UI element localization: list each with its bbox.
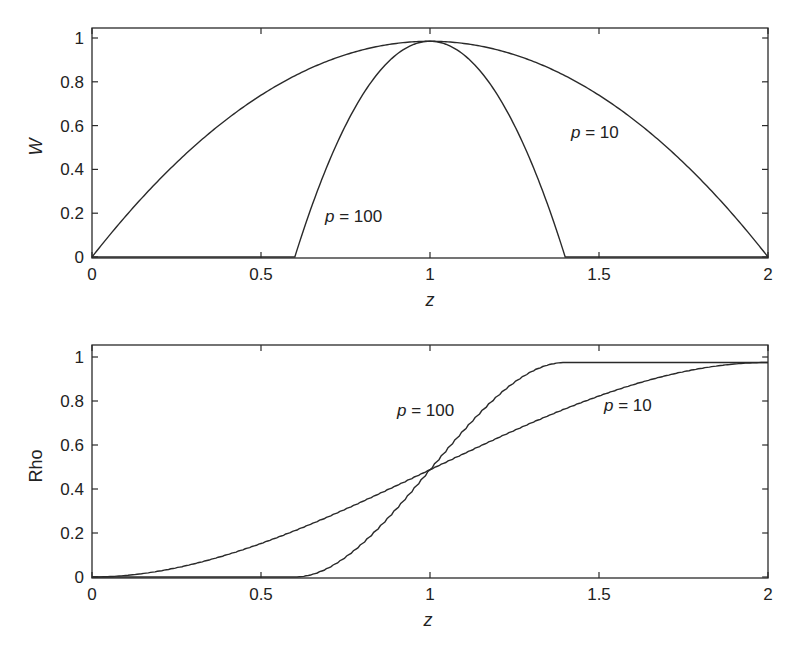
x-tick-label: 2 bbox=[763, 265, 772, 284]
bottom-x-axis-title: z bbox=[423, 610, 433, 630]
bottom-curves bbox=[92, 363, 768, 578]
bottom-plot-frame bbox=[92, 345, 768, 578]
x-tick-label: 0 bbox=[87, 265, 96, 284]
y-tick-label: 0.2 bbox=[60, 204, 84, 223]
top-y-axis-title: W bbox=[26, 137, 46, 156]
top-annotation-p100: p = 100 bbox=[324, 207, 382, 226]
y-tick-label: 0.6 bbox=[60, 117, 84, 136]
y-tick-label: 0.4 bbox=[60, 160, 84, 179]
bottom-annotation-p100: p = 100 bbox=[396, 401, 454, 420]
x-tick-label: 1 bbox=[425, 265, 434, 284]
y-tick-label: 1 bbox=[75, 348, 84, 367]
top-y-ticks: 00.20.40.60.81 bbox=[60, 29, 768, 267]
bottom-y-ticks: 00.20.40.60.81 bbox=[60, 348, 768, 587]
top-plot-frame bbox=[92, 28, 768, 258]
top-x-ticks: 00.511.52 bbox=[87, 28, 772, 284]
y-tick-label: 1 bbox=[75, 29, 84, 48]
w-curve-p10 bbox=[92, 41, 768, 257]
top-plot-w: 00.511.52 00.20.40.60.81 z W p = 100 p =… bbox=[26, 28, 773, 310]
y-tick-label: 0.2 bbox=[60, 524, 84, 543]
bottom-annotation-p10: p = 10 bbox=[603, 396, 652, 415]
x-tick-label: 1 bbox=[425, 585, 434, 604]
y-tick-label: 0 bbox=[75, 568, 84, 587]
y-tick-label: 0.8 bbox=[60, 392, 84, 411]
rho-curve-p100 bbox=[92, 363, 768, 578]
x-tick-label: 1.5 bbox=[587, 265, 611, 284]
bottom-plot-rho: 00.511.52 00.20.40.60.81 z Rho p = 100 p… bbox=[26, 345, 773, 630]
bottom-y-axis-title: Rho bbox=[26, 449, 46, 482]
y-tick-label: 0.6 bbox=[60, 436, 84, 455]
x-tick-label: 0.5 bbox=[249, 585, 273, 604]
x-tick-label: 1.5 bbox=[587, 585, 611, 604]
top-curves bbox=[92, 41, 768, 257]
x-tick-label: 0 bbox=[87, 585, 96, 604]
x-tick-label: 2 bbox=[763, 585, 772, 604]
figure: 00.511.52 00.20.40.60.81 z W p = 100 p =… bbox=[0, 0, 795, 657]
top-annotation-p10: p = 10 bbox=[570, 123, 619, 142]
y-tick-label: 0.4 bbox=[60, 480, 84, 499]
y-tick-label: 0.8 bbox=[60, 73, 84, 92]
top-x-axis-title: z bbox=[425, 290, 435, 310]
w-curve-p100 bbox=[92, 41, 768, 257]
y-tick-label: 0 bbox=[75, 248, 84, 267]
x-tick-label: 0.5 bbox=[249, 265, 273, 284]
